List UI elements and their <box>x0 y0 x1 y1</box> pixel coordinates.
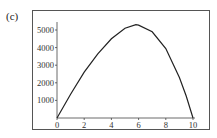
x-tick-label: 0 <box>55 120 59 130</box>
x-tick-label: 8 <box>164 120 168 130</box>
y-tick-label: 1000 <box>37 95 54 105</box>
x-tick-label: 6 <box>136 120 140 130</box>
y-tick-label: 2000 <box>37 78 54 88</box>
y-tick-label: 4000 <box>37 43 54 53</box>
chart: 10002000300040005000 0246810 <box>0 0 217 138</box>
y-tick-label: 3000 <box>37 60 54 70</box>
x-axis: 0246810 <box>55 118 197 130</box>
y-tick-label: 5000 <box>37 25 54 35</box>
data-curve <box>57 25 193 118</box>
x-tick-label: 4 <box>109 120 114 130</box>
y-axis: 10002000300040005000 <box>37 22 57 118</box>
x-tick-label: 10 <box>189 120 198 130</box>
x-tick-label: 2 <box>82 120 86 130</box>
